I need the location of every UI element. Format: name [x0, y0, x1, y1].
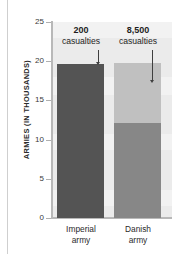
- annotation-danish-casualties: 8,500 casualties: [111, 25, 165, 47]
- y-tick-label: 10: [24, 136, 44, 144]
- annotation-imperial-casualties: 200 casualties: [54, 25, 108, 47]
- y-tick: [46, 218, 51, 219]
- bar-imperial-army: [57, 64, 104, 218]
- x-tick-label-line: army: [107, 235, 169, 246]
- page-margin-rule: [7, 0, 8, 254]
- y-tick: [46, 179, 51, 180]
- y-tick-label: 20: [24, 57, 44, 65]
- y-tick: [46, 22, 51, 23]
- annotation-unit: casualties: [111, 36, 165, 47]
- y-tick: [46, 61, 51, 62]
- arrow-head-icon: [96, 62, 100, 65]
- y-tick-label: 15: [24, 96, 44, 104]
- bar-danish-army-upper: [114, 63, 161, 123]
- annotation-arrow-danish: [152, 50, 153, 81]
- chart-figure: ARMIES (IN THOUSANDS) 25 20 15 10 5 0 20…: [0, 0, 180, 254]
- y-tick: [46, 140, 51, 141]
- annotation-unit: casualties: [54, 36, 108, 47]
- annotation-value: 200: [54, 25, 108, 36]
- x-tick-label-line: Imperial: [50, 224, 112, 235]
- y-tick-label: 0: [24, 214, 44, 222]
- y-axis-spine: [51, 21, 53, 219]
- y-tick-label: 5: [24, 175, 44, 183]
- x-tick-label-danish: Danish army: [107, 224, 169, 246]
- x-tick-label-imperial: Imperial army: [50, 224, 112, 246]
- annotation-value: 8,500: [111, 25, 165, 36]
- x-tick-label-line: Danish: [107, 224, 169, 235]
- bar-danish-army-lower: [114, 123, 161, 218]
- arrow-head-icon: [150, 80, 154, 83]
- x-tick-label-line: army: [50, 235, 112, 246]
- y-tick-label: 25: [24, 18, 44, 26]
- y-tick: [46, 100, 51, 101]
